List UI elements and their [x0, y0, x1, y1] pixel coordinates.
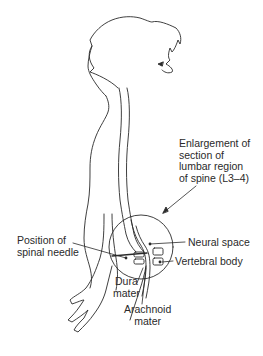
lumbar-puncture-diagram: Enlargement of section of lumbar region …: [0, 0, 263, 356]
child-arm-hand: [68, 214, 118, 332]
label-neural-space: Neural space: [188, 237, 250, 249]
label-spinal-needle: Position of spinal needle: [17, 235, 79, 258]
vertebrae: [134, 248, 163, 265]
child-back-outline: [84, 96, 109, 288]
enlargement-circle: [109, 215, 173, 279]
label-vertebral-body: Vertebral body: [175, 256, 243, 268]
child-head-outline: [88, 17, 181, 96]
label-enlargement: Enlargement of section of lumbar region …: [179, 138, 250, 184]
label-arachnoid-mater: Arachnoid mater: [124, 304, 171, 327]
label-dura-mater: Dura mater: [113, 276, 140, 299]
